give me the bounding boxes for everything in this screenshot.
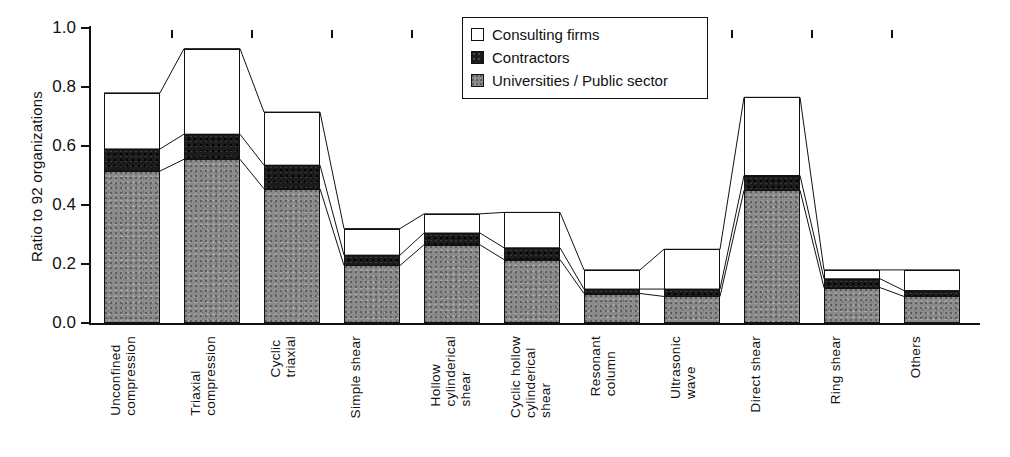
x-axis-label-5: Hollow cylinderical shear (428, 336, 473, 406)
x-tick (411, 30, 413, 38)
bar-segment-universities (744, 190, 800, 323)
x-tick (251, 30, 253, 38)
x-axis-label-2: Triaxial compression (188, 336, 218, 416)
bar-segment-contractors (504, 248, 560, 260)
bar-segment-contractors (824, 279, 880, 288)
x-axis-label-9: Direct shear (748, 336, 763, 412)
bar-segment-contractors (664, 289, 720, 296)
bar-segment-contractors (264, 165, 320, 189)
bar-segment-universities (184, 159, 240, 323)
bar-10[interactable] (824, 28, 880, 323)
x-axis-label-11: Others (908, 336, 923, 378)
y-tick-label: 0.0 (52, 313, 76, 333)
legend: Consulting firms Contractors Universitie… (462, 17, 708, 99)
bar-segment-universities (664, 296, 720, 323)
bar-segment-contractors (184, 134, 240, 159)
bar-segment-universities (904, 296, 960, 323)
y-tick (81, 27, 90, 29)
bar-segment-consulting-firms (264, 112, 320, 165)
legend-label-consulting-firms: Consulting firms (492, 26, 600, 43)
y-tick (81, 204, 90, 206)
bar-segment-consulting-firms (104, 93, 160, 149)
x-axis-line (89, 323, 980, 325)
x-tick (891, 30, 893, 38)
bar-segment-consulting-firms (824, 270, 880, 279)
bar-11[interactable] (904, 28, 960, 323)
bar-segment-universities (264, 189, 320, 323)
y-tick (81, 322, 90, 324)
y-axis-title: Ratio to 92 organizations (28, 57, 45, 297)
y-tick-label: 1.0 (52, 18, 76, 38)
bar-segment-universities (424, 245, 480, 323)
bar-segment-consulting-firms (904, 270, 960, 291)
x-tick (811, 30, 813, 38)
legend-item-universities-public-sector: Universities / Public sector (471, 69, 699, 92)
bar-9[interactable] (744, 28, 800, 323)
bar-segment-universities (504, 260, 560, 323)
black-square-icon (471, 51, 484, 64)
x-axis-label-1: Unconfined compression (108, 336, 138, 416)
x-axis-label-3: Cyclic triaxial (268, 336, 298, 377)
bar-segment-consulting-firms (744, 97, 800, 175)
bar-segment-contractors (104, 149, 160, 171)
bar-segment-universities (824, 288, 880, 323)
bar-segment-consulting-firms (184, 49, 240, 135)
y-tick-label: 0.4 (52, 195, 76, 215)
bar-3[interactable] (264, 28, 320, 323)
bar-segment-consulting-firms (424, 214, 480, 233)
bar-segment-universities (584, 294, 640, 324)
bar-segment-consulting-firms (664, 249, 720, 289)
bar-2[interactable] (184, 28, 240, 323)
bar-4[interactable] (344, 28, 400, 323)
y-tick (81, 263, 90, 265)
bar-segment-consulting-firms (504, 212, 560, 247)
white-square-icon (471, 28, 484, 41)
y-tick (81, 145, 90, 147)
x-axis-label-4: Simple shear (348, 336, 363, 418)
bar-segment-contractors (424, 233, 480, 245)
y-tick (81, 86, 90, 88)
bar-1[interactable] (104, 28, 160, 323)
x-axis-label-6: Cyclic hollow cylinderical shear (508, 336, 553, 418)
x-tick (331, 30, 333, 38)
legend-item-consulting-firms: Consulting firms (471, 23, 699, 46)
bar-segment-universities (104, 171, 160, 323)
legend-label-universities-public-sector: Universities / Public sector (492, 72, 668, 89)
legend-item-contractors: Contractors (471, 46, 699, 69)
gray-square-icon (471, 74, 484, 87)
chart-figure: Ratio to 92 organizations 0.00.20.40.60.… (0, 0, 1010, 457)
bar-segment-contractors (584, 289, 640, 293)
bar-segment-contractors (904, 291, 960, 297)
x-axis-label-10: Ring shear (828, 336, 843, 404)
x-axis-label-7: Resonant column (588, 336, 618, 396)
x-tick (171, 30, 173, 38)
y-tick-label: 0.2 (52, 254, 76, 274)
x-tick (731, 30, 733, 38)
y-tick-label: 0.8 (52, 77, 76, 97)
bar-segment-consulting-firms (344, 229, 400, 256)
bar-segment-consulting-firms (584, 270, 640, 289)
bar-segment-contractors (344, 255, 400, 265)
bar-segment-contractors (744, 176, 800, 191)
y-tick-label: 0.6 (52, 136, 76, 156)
legend-label-contractors: Contractors (492, 49, 570, 66)
x-axis-label-8: Ultrasonic wave (668, 336, 698, 399)
bar-segment-universities (344, 265, 400, 323)
